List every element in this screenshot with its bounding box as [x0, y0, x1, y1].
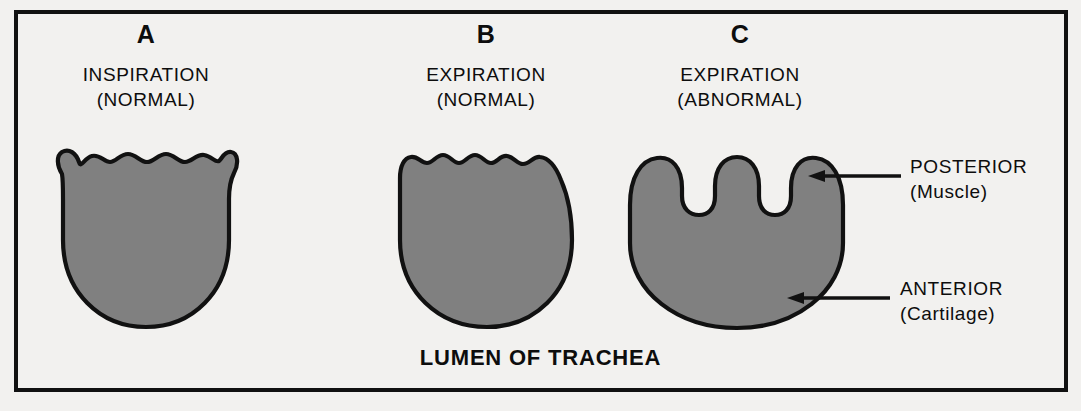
annotation-posterior-sub: (Muscle)	[910, 180, 1027, 205]
annotation-anterior-label: ANTERIOR	[900, 278, 1003, 299]
panel-phase-b: EXPIRATION	[426, 64, 546, 85]
panel-phase-a: INSPIRATION	[83, 64, 210, 85]
panel-letter-a: A	[106, 20, 186, 49]
panel-qualifier-c: (ABNORMAL)	[625, 87, 855, 112]
tracheal-lumen-figure: A INSPIRATION (NORMAL) B EXPIRATION (NOR…	[0, 0, 1081, 411]
annotation-posterior-label: POSTERIOR	[910, 156, 1027, 177]
panel-caption-c: EXPIRATION (ABNORMAL)	[625, 62, 855, 112]
panel-letter-c: C	[700, 20, 780, 49]
annotation-anterior-sub: (Cartilage)	[900, 302, 1003, 327]
panel-letter-b: B	[446, 20, 526, 49]
annotation-anterior: ANTERIOR (Cartilage)	[900, 277, 1003, 326]
panel-qualifier-a: (NORMAL)	[46, 87, 246, 112]
annotation-posterior: POSTERIOR (Muscle)	[910, 155, 1027, 204]
panel-caption-a: INSPIRATION (NORMAL)	[46, 62, 246, 112]
panel-phase-c: EXPIRATION	[680, 64, 800, 85]
panel-qualifier-b: (NORMAL)	[386, 87, 586, 112]
bottom-caption: LUMEN OF TRACHEA	[0, 345, 1081, 371]
panel-caption-b: EXPIRATION (NORMAL)	[386, 62, 586, 112]
